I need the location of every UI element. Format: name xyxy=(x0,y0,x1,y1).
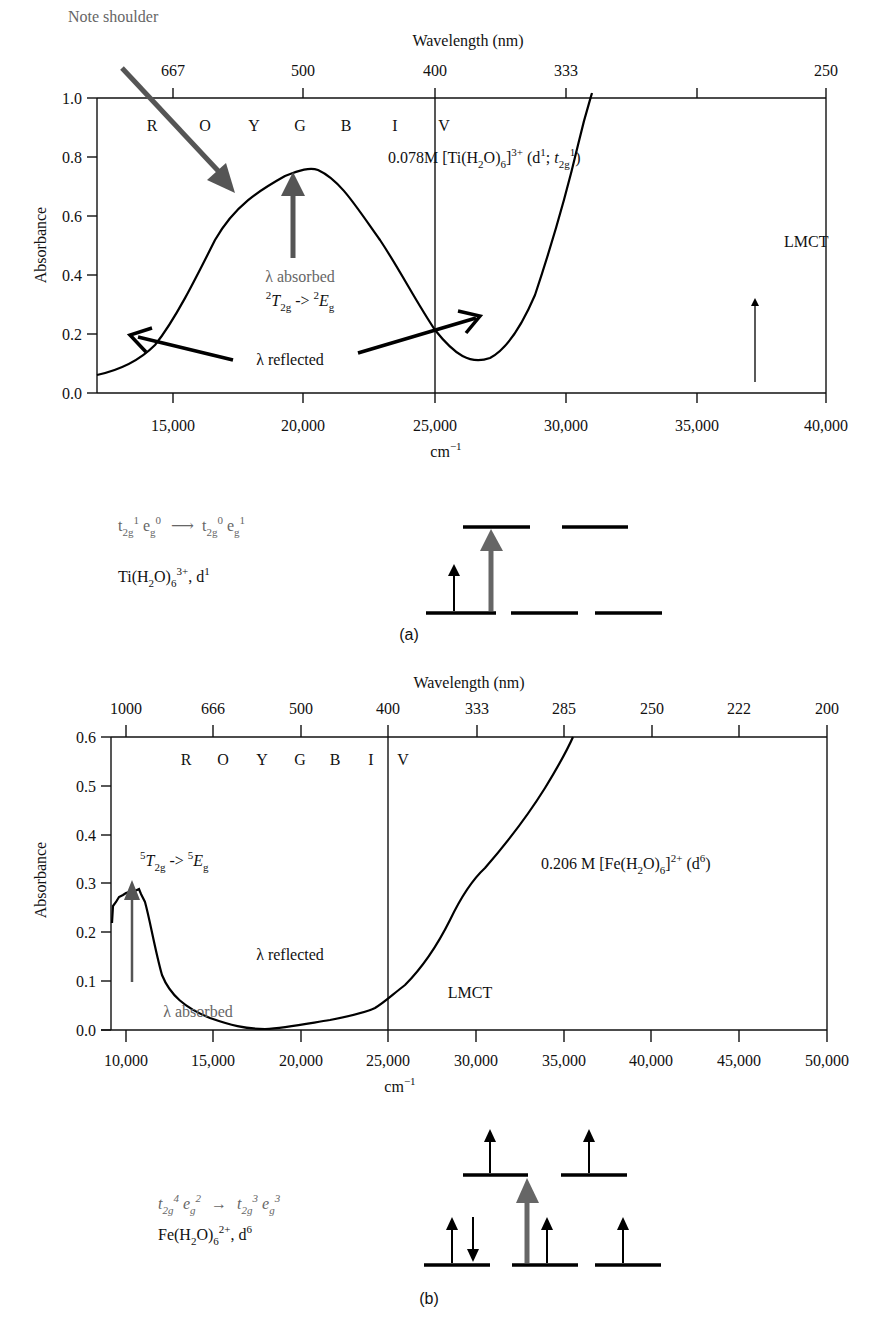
reflected-right-arrow-icon xyxy=(358,318,476,353)
svg-text:45,000: 45,000 xyxy=(717,1052,761,1069)
svg-text:333: 333 xyxy=(465,700,489,717)
chart-a-color-letters: R O Y G B I V xyxy=(147,117,451,134)
chart-a-lmct-label: LMCT xyxy=(784,233,829,250)
svg-text:400: 400 xyxy=(376,700,400,717)
electron-spin-up-arrowhead-icon xyxy=(484,1129,496,1142)
svg-text:500: 500 xyxy=(289,700,313,717)
svg-text:25,000: 25,000 xyxy=(366,1052,410,1069)
electron-spin-up-arrowhead-icon xyxy=(448,564,460,576)
chart-a-reflected-label: λ reflected xyxy=(256,351,324,368)
chart-a-absorbed-label: λ absorbed xyxy=(265,268,335,285)
svg-text:0.2: 0.2 xyxy=(76,924,96,941)
svg-text:0.4: 0.4 xyxy=(76,827,96,844)
svg-text:V: V xyxy=(438,117,450,134)
chart-b-absorbance-curve xyxy=(112,737,573,1029)
svg-text:0.6: 0.6 xyxy=(76,729,96,746)
excitation-arrowhead-icon xyxy=(516,1178,539,1203)
top-tick-label: 500 xyxy=(291,62,315,79)
electron-spin-down-arrowhead-icon xyxy=(467,1249,479,1262)
svg-text:250: 250 xyxy=(640,700,664,717)
panel-a-formula: Ti(H2O)63+, d1 xyxy=(118,565,210,589)
svg-text:G: G xyxy=(294,751,306,768)
svg-text:R: R xyxy=(147,117,158,134)
electron-spin-up-arrowhead-icon xyxy=(583,1129,595,1142)
electron-spin-up-arrowhead-icon xyxy=(617,1217,629,1230)
chart-a-top-ticks: 667 500 400 333 250 xyxy=(161,62,838,98)
top-tick-label: 333 xyxy=(554,62,578,79)
chart-b-x-axis-title: cm−1 xyxy=(384,1075,415,1095)
svg-text:R: R xyxy=(181,751,192,768)
svg-text:10,000: 10,000 xyxy=(104,1052,148,1069)
chart-b-color-letters: R O Y G B I V xyxy=(181,751,410,768)
chart-b-transition-label: 5T2g -> 5Eg xyxy=(140,849,209,873)
x-tick-label: 35,000 xyxy=(675,417,719,434)
y-tick-label: 0.6 xyxy=(62,208,82,225)
electron-spin-up-arrowhead-icon xyxy=(446,1217,458,1230)
note-shoulder-label: Note shoulder xyxy=(68,8,159,25)
chart-a-y-axis-title: Absorbance xyxy=(32,207,49,283)
chart-b-lmct-label: LMCT xyxy=(448,984,493,1001)
svg-text:40,000: 40,000 xyxy=(629,1052,673,1069)
excitation-arrowhead-icon xyxy=(480,529,503,551)
svg-text:B: B xyxy=(330,751,341,768)
figure-canvas: 667 500 400 333 250 Wavelength (nm) 0.0 … xyxy=(0,0,893,1332)
chart-a-x-axis-title: cm−1 xyxy=(430,440,461,460)
svg-text:O: O xyxy=(199,117,211,134)
panel-b-label: (b) xyxy=(419,1290,439,1307)
electron-spin-up-arrowhead-icon xyxy=(541,1217,553,1230)
y-tick-label: 0.8 xyxy=(62,149,82,166)
svg-text:666: 666 xyxy=(201,700,225,717)
svg-text:O: O xyxy=(217,751,229,768)
x-tick-label: 30,000 xyxy=(544,417,588,434)
top-tick-label: 250 xyxy=(814,62,838,79)
svg-text:Y: Y xyxy=(248,117,260,134)
chart-a-species-label: 0.078M [Ti(H2O)6]3+ (d1; t2g1) xyxy=(388,146,581,170)
chart-b-absorbed-label: λ absorbed xyxy=(163,1003,233,1020)
svg-text:I: I xyxy=(392,117,397,134)
svg-text:G: G xyxy=(294,117,306,134)
panel-b-formula: Fe(H2O)62+, d6 xyxy=(158,1223,253,1247)
y-tick-label: 1.0 xyxy=(62,90,82,107)
chart-b-reflected-label: λ reflected xyxy=(256,946,324,963)
svg-text:I: I xyxy=(368,751,373,768)
svg-text:222: 222 xyxy=(727,700,751,717)
chart-b-y-ticks: 0.0 0.1 0.2 0.3 0.4 0.5 0.6 xyxy=(76,729,111,1039)
note-shoulder-arrowhead-icon xyxy=(207,163,235,193)
svg-text:B: B xyxy=(341,117,352,134)
panel-b-config-transition: t2g4 eg2 →t2g3 eg3 xyxy=(158,1192,281,1216)
chart-b-y-axis-title: Absorbance xyxy=(32,842,49,918)
svg-text:285: 285 xyxy=(552,700,576,717)
chart-a-y-ticks: 0.0 0.2 0.4 0.6 0.8 1.0 xyxy=(62,90,97,402)
x-tick-label: 15,000 xyxy=(151,417,195,434)
svg-text:0.5: 0.5 xyxy=(76,778,96,795)
svg-text:15,000: 15,000 xyxy=(191,1052,235,1069)
svg-text:0.3: 0.3 xyxy=(76,875,96,892)
panel-b-diagram: t2g4 eg2 →t2g3 eg3 Fe(H2O)62+, d6 (b) xyxy=(158,1129,661,1307)
svg-text:V: V xyxy=(397,751,409,768)
chart-b-species-label: 0.206 M [Fe(H2O)6]2+ (d6) xyxy=(541,852,711,876)
panel-a-diagram: t2g1 eg0 ⟶t2g0 eg1 Ti(H2O)63+, d1 (a) xyxy=(118,514,662,643)
x-tick-label: 25,000 xyxy=(413,417,457,434)
svg-text:20,000: 20,000 xyxy=(279,1052,323,1069)
chart-b-x-ticks: 10,000 15,000 20,000 25,000 30,000 35,00… xyxy=(104,1030,849,1069)
chart-a-absorbance-curve xyxy=(97,93,592,375)
svg-text:35,000: 35,000 xyxy=(542,1052,586,1069)
chart-a: 667 500 400 333 250 Wavelength (nm) 0.0 … xyxy=(32,8,848,460)
top-tick-label: 400 xyxy=(423,62,447,79)
chart-b-top-axis-title: Wavelength (nm) xyxy=(413,674,524,692)
svg-text:30,000: 30,000 xyxy=(454,1052,498,1069)
svg-text:200: 200 xyxy=(815,700,839,717)
svg-text:0.1: 0.1 xyxy=(76,973,96,990)
panel-a-config-transition: t2g1 eg0 ⟶t2g0 eg1 xyxy=(118,514,245,538)
chart-a-transition-label: 2T2g -> 2Eg xyxy=(266,289,335,313)
chart-b: 1000 666 500 400 333 285 250 222 200 Wav… xyxy=(32,674,849,1095)
y-tick-label: 0.0 xyxy=(62,385,82,402)
chart-b-top-ticks: 1000 666 500 400 333 285 250 222 200 xyxy=(110,700,839,737)
y-tick-label: 0.2 xyxy=(62,326,82,343)
chart-a-x-ticks: 15,000 20,000 25,000 30,000 35,000 40,00… xyxy=(151,393,848,434)
x-tick-label: 40,000 xyxy=(804,417,848,434)
svg-text:Y: Y xyxy=(256,751,268,768)
svg-text:1000: 1000 xyxy=(110,700,142,717)
svg-text:0.0: 0.0 xyxy=(76,1022,96,1039)
svg-text:50,000: 50,000 xyxy=(805,1052,849,1069)
